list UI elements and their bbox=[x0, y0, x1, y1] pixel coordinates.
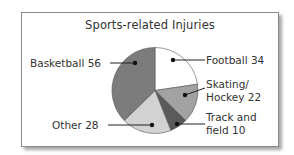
dot-basketball bbox=[133, 61, 137, 65]
label-track-2: field 10 bbox=[206, 124, 245, 136]
label-track-1: Track and bbox=[206, 111, 257, 123]
dot-football bbox=[171, 58, 175, 62]
dot-other bbox=[150, 123, 154, 127]
dot-skating bbox=[183, 93, 187, 97]
dot-track bbox=[175, 122, 179, 126]
label-other: Other 28 bbox=[52, 119, 99, 131]
label-football: Football 34 bbox=[206, 54, 264, 66]
pie-chart bbox=[0, 0, 294, 155]
label-basketball: Basketball 56 bbox=[30, 57, 101, 69]
label-skating-2: Hockey 22 bbox=[206, 91, 261, 103]
slice-football bbox=[155, 48, 198, 91]
label-skating-1: Skating/ bbox=[206, 78, 249, 90]
